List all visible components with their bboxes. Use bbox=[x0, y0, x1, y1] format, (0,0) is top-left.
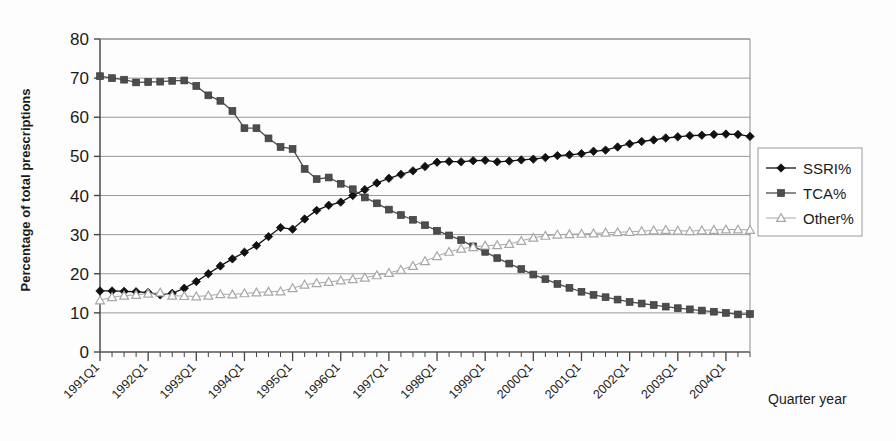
data-point-filled-square bbox=[301, 165, 308, 172]
data-point-filled-square bbox=[349, 186, 356, 193]
data-point-open-triangle bbox=[433, 252, 442, 260]
data-point-open-triangle bbox=[409, 262, 418, 270]
x-tick-label: 1994Q1 bbox=[205, 360, 246, 401]
data-point-filled-square bbox=[398, 212, 405, 219]
data-point-filled-diamond bbox=[686, 131, 694, 139]
x-axis-tick-labels: 1991Q11992Q11993Q11994Q11995Q11996Q11997… bbox=[61, 360, 728, 401]
data-point-filled-diamond bbox=[710, 130, 718, 138]
data-point-filled-diamond bbox=[240, 248, 248, 256]
legend-label: Other% bbox=[803, 210, 854, 227]
data-point-filled-square bbox=[778, 190, 785, 197]
data-point-filled-square bbox=[109, 75, 116, 82]
y-tick-label: 20 bbox=[70, 265, 89, 284]
data-point-filled-square bbox=[265, 135, 272, 142]
data-point-filled-square bbox=[614, 296, 621, 303]
y-tick-label: 70 bbox=[70, 69, 89, 88]
data-point-filled-square bbox=[650, 302, 657, 309]
data-point-filled-square bbox=[566, 284, 573, 291]
x-tick-label: 1992Q1 bbox=[109, 360, 150, 401]
data-point-filled-diamond bbox=[553, 151, 561, 159]
data-point-filled-square bbox=[289, 146, 296, 153]
data-point-filled-square bbox=[373, 200, 380, 207]
x-tick-label: 1993Q1 bbox=[157, 360, 198, 401]
data-point-filled-diamond bbox=[517, 156, 525, 164]
data-point-open-triangle bbox=[421, 257, 430, 265]
data-point-filled-diamond bbox=[385, 174, 393, 182]
data-point-open-triangle bbox=[661, 226, 670, 234]
data-point-filled-square bbox=[735, 311, 742, 318]
data-point-filled-square bbox=[337, 180, 344, 187]
x-tick-label: 2002Q1 bbox=[590, 360, 631, 401]
data-point-filled-diamond bbox=[228, 255, 236, 263]
data-point-filled-diamond bbox=[625, 140, 633, 148]
data-point-filled-square bbox=[747, 311, 754, 318]
data-point-filled-diamond bbox=[337, 198, 345, 206]
data-point-filled-diamond bbox=[481, 156, 489, 164]
data-point-filled-square bbox=[205, 92, 212, 99]
x-tick-label: 1995Q1 bbox=[253, 360, 294, 401]
data-point-filled-diamond bbox=[662, 134, 670, 142]
data-point-filled-square bbox=[217, 97, 224, 104]
y-tick-label: 40 bbox=[70, 187, 89, 206]
data-point-filled-square bbox=[602, 294, 609, 301]
data-point-filled-square bbox=[434, 227, 441, 234]
data-point-filled-diamond bbox=[373, 179, 381, 187]
data-point-filled-square bbox=[446, 232, 453, 239]
data-point-filled-diamond bbox=[469, 156, 477, 164]
data-point-filled-square bbox=[578, 288, 585, 295]
data-point-filled-diamond bbox=[96, 287, 104, 295]
data-point-filled-square bbox=[710, 308, 717, 315]
data-point-filled-diamond bbox=[493, 158, 501, 166]
x-tick-label: 1997Q1 bbox=[350, 360, 391, 401]
data-point-filled-square bbox=[518, 266, 525, 273]
data-point-filled-square bbox=[277, 144, 284, 151]
data-point-filled-square bbox=[325, 174, 332, 181]
data-point-filled-diamond bbox=[674, 133, 682, 141]
data-point-filled-square bbox=[145, 79, 152, 86]
data-point-filled-diamond bbox=[565, 151, 573, 159]
legend-label: TCA% bbox=[803, 185, 846, 202]
data-point-filled-square bbox=[662, 303, 669, 310]
data-point-filled-square bbox=[181, 77, 188, 84]
line-chart: 01020304050607080 1991Q11992Q11993Q11994… bbox=[0, 0, 896, 441]
data-point-filled-square bbox=[253, 125, 260, 132]
y-tick-label: 0 bbox=[80, 343, 89, 362]
data-point-filled-diamond bbox=[541, 153, 549, 161]
data-point-filled-square bbox=[698, 307, 705, 314]
data-point-filled-square bbox=[313, 176, 320, 183]
data-point-filled-diamond bbox=[637, 137, 645, 145]
data-point-filled-square bbox=[626, 299, 633, 306]
x-tick-label: 1991Q1 bbox=[61, 360, 102, 401]
data-point-filled-square bbox=[422, 222, 429, 229]
y-tick-label: 30 bbox=[70, 226, 89, 245]
y-axis-tick-labels: 01020304050607080 bbox=[70, 30, 100, 362]
y-tick-label: 50 bbox=[70, 147, 89, 166]
data-point-filled-square bbox=[157, 78, 164, 85]
data-point-filled-diamond bbox=[746, 132, 754, 140]
data-point-open-triangle bbox=[156, 288, 165, 296]
y-tick-label: 80 bbox=[70, 30, 89, 49]
y-axis-title: Percentage of total prescriptions bbox=[18, 89, 33, 292]
data-point-filled-square bbox=[638, 300, 645, 307]
data-point-filled-diamond bbox=[601, 146, 609, 154]
data-point-filled-diamond bbox=[457, 158, 465, 166]
x-axis-title: Quarter year bbox=[768, 391, 847, 407]
data-point-filled-square bbox=[241, 125, 248, 132]
data-point-filled-diamond bbox=[409, 167, 417, 175]
data-point-filled-square bbox=[542, 276, 549, 283]
x-tick-label: 1998Q1 bbox=[398, 360, 439, 401]
data-point-filled-diamond bbox=[722, 130, 730, 138]
y-tick-label: 10 bbox=[70, 304, 89, 323]
data-point-filled-square bbox=[458, 237, 465, 244]
data-point-filled-diamond bbox=[433, 158, 441, 166]
data-point-filled-diamond bbox=[397, 170, 405, 178]
chart-legend[interactable]: SSRI%TCA%Other% bbox=[758, 148, 862, 236]
data-point-filled-diamond bbox=[589, 147, 597, 155]
data-point-filled-diamond bbox=[216, 262, 224, 270]
legend-label: SSRI% bbox=[803, 160, 851, 177]
data-point-filled-diamond bbox=[421, 162, 429, 170]
series-Other bbox=[96, 225, 755, 304]
data-point-filled-square bbox=[674, 305, 681, 312]
data-point-open-triangle bbox=[216, 290, 225, 298]
data-point-filled-diamond bbox=[445, 157, 453, 165]
